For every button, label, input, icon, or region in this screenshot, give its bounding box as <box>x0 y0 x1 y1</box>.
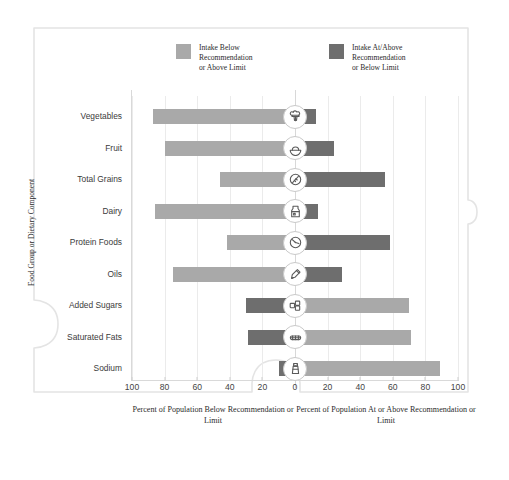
y-axis-title: Food Group or Dietary Component <box>27 158 36 308</box>
legend-label-above: Intake At/Above Recommendation or Below … <box>352 43 406 74</box>
sodium-icon <box>283 357 307 381</box>
x-caption-right-text: Percent of Population At or Above Recomm… <box>296 405 476 425</box>
legend-swatch-below <box>176 44 191 59</box>
category-label-sodium: Sodium <box>94 363 122 373</box>
legend-above-line1: Intake At/Above <box>352 43 402 52</box>
bar-right-protein-foods <box>295 235 390 250</box>
category-label-fruit: Fruit <box>105 143 122 153</box>
tick-mark <box>392 377 393 381</box>
protein-icon <box>283 231 307 255</box>
x-tick-label: 0 <box>293 382 298 392</box>
category-label-saturated-fats: Saturated Fats <box>67 332 122 342</box>
legend-above-line3: or Below Limit <box>352 63 399 72</box>
x-tick-label: 100 <box>451 382 465 392</box>
bar-row: Sodium <box>132 352 458 384</box>
bar-row: Total Grains <box>132 163 458 195</box>
category-label-dairy: Dairy <box>102 206 122 216</box>
x-tick-label: 40 <box>355 382 365 392</box>
x-caption-left-text: Percent of Population Below Recommendati… <box>132 405 293 425</box>
tick-mark <box>229 377 230 381</box>
tick-mark <box>164 377 165 381</box>
bar-left-dairy <box>155 204 295 219</box>
legend-label-below: Intake Below Recommendation or Above Lim… <box>199 43 253 74</box>
bar-row: Protein Foods <box>132 226 458 258</box>
grains-icon <box>283 168 307 192</box>
legend-swatch-above <box>329 44 344 59</box>
category-label-vegetables: Vegetables <box>81 111 122 121</box>
bar-right-saturated-fats <box>295 330 411 345</box>
bar-row: Added Sugars <box>132 289 458 321</box>
gridline <box>458 96 459 380</box>
x-tick-label: 80 <box>421 382 431 392</box>
bar-row: Fruit <box>132 132 458 164</box>
oils-icon <box>283 262 307 286</box>
tick-mark <box>262 377 263 381</box>
tick-mark <box>360 377 361 381</box>
x-axis-caption-left: Percent of Population Below Recommendati… <box>128 404 298 426</box>
x-axis-caption-right: Percent of Population At or Above Recomm… <box>296 404 476 426</box>
plot-area: VegetablesFruitTotal GrainsDairyProtein … <box>132 96 458 380</box>
x-tick-label: 100 <box>125 382 139 392</box>
category-label-oils: Oils <box>108 269 122 279</box>
broccoli-icon <box>283 105 307 129</box>
x-tick-label: 40 <box>225 382 235 392</box>
chart-legend: Intake Below Recommendation or Above Lim… <box>0 40 509 86</box>
bar-row: Dairy <box>132 195 458 227</box>
legend-item-above: Intake At/Above Recommendation or Below … <box>329 43 406 74</box>
tick-mark <box>327 377 328 381</box>
tick-mark <box>458 377 459 381</box>
added-sugars-icon <box>283 294 307 318</box>
tick-mark <box>425 377 426 381</box>
bar-row: Saturated Fats <box>132 321 458 353</box>
x-axis-ticks: 10080604020020406080100 <box>132 382 458 396</box>
bar-right-total-grains <box>295 172 385 187</box>
legend-above-line2: Recommendation <box>352 53 406 62</box>
legend-item-below: Intake Below Recommendation or Above Lim… <box>176 43 253 74</box>
x-tick-label: 20 <box>258 382 268 392</box>
bar-left-oils <box>173 267 295 282</box>
fruit-icon <box>283 136 307 160</box>
x-tick-label: 80 <box>160 382 170 392</box>
bar-row: Vegetables <box>132 100 458 132</box>
bar-left-fruit <box>165 141 295 156</box>
x-tick-label: 60 <box>388 382 398 392</box>
category-label-total-grains: Total Grains <box>77 174 122 184</box>
saturated-fats-icon <box>283 325 307 349</box>
legend-below-line2: Recommendation <box>199 53 253 62</box>
bar-left-vegetables <box>153 109 295 124</box>
legend-below-line1: Intake Below <box>199 43 240 52</box>
x-tick-label: 60 <box>192 382 202 392</box>
legend-below-line3: or Above Limit <box>199 63 246 72</box>
category-label-added-sugars: Added Sugars <box>69 300 122 310</box>
bar-right-sodium <box>295 361 440 376</box>
bar-right-added-sugars <box>295 298 409 313</box>
bar-row: Oils <box>132 258 458 290</box>
category-label-protein-foods: Protein Foods <box>70 237 122 247</box>
tick-mark <box>132 377 133 381</box>
dairy-icon <box>283 199 307 223</box>
x-tick-label: 20 <box>323 382 333 392</box>
tick-mark <box>197 377 198 381</box>
